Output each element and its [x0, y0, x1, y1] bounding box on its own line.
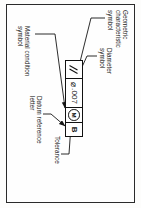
feature-control-frame: ⌀.007 M B [65, 60, 83, 137]
scanned-figure-page: ⌀.007 M B Geometric characteristic symbo… [0, 0, 141, 208]
geometric-characteristic-symbol-cell [66, 61, 82, 79]
parallelism-icon [69, 63, 80, 76]
diameter-symbol: ⌀ [70, 82, 79, 87]
label-diameter-symbol: Diameter symbol [98, 48, 113, 74]
datum-reference-letter-cell: B [66, 123, 82, 136]
mmc-circled-m-icon: M [68, 109, 80, 121]
tolerance-value-cell: ⌀.007 [66, 79, 82, 108]
label-material-condition-symbol: Material condition symbol [16, 26, 31, 76]
material-condition-symbol-cell: M [66, 108, 82, 123]
label-datum-reference-letter: Datum reference letter [28, 96, 43, 144]
label-tolerance: Tolerance [54, 136, 61, 164]
gdt-figure: ⌀.007 M B Geometric characteristic symbo… [6, 4, 135, 203]
label-geometric-characteristic-symbol: Geometric characteristic symbol [107, 10, 129, 48]
tolerance-value-text: .007 [70, 88, 78, 104]
page-border: ⌀.007 M B Geometric characteristic symbo… [6, 4, 135, 203]
